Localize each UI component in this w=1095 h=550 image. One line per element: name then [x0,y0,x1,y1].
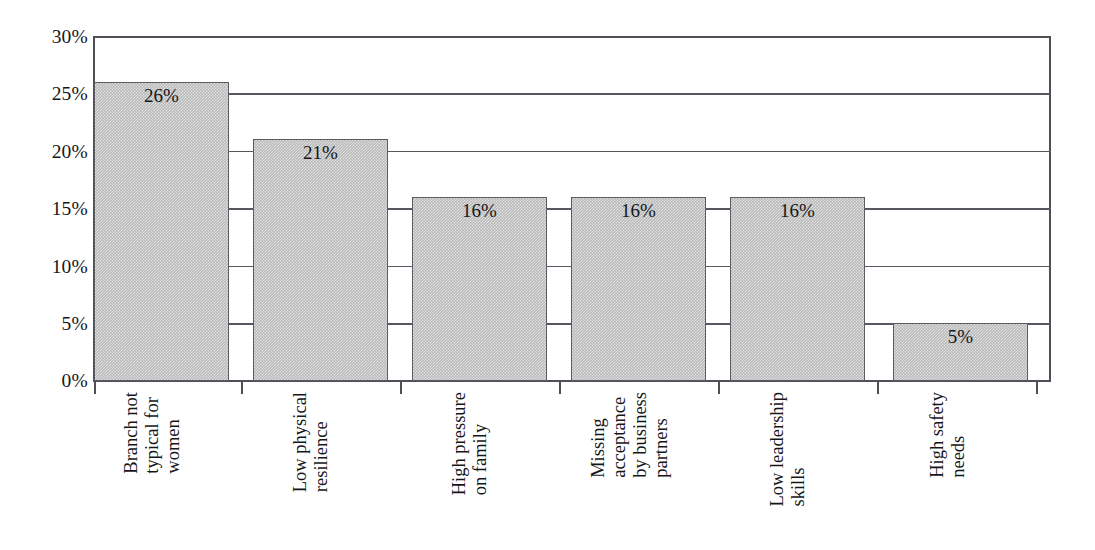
x-category-label-low-physical-resilience: Low physical resilience [290,392,332,492]
x-tick-4 [718,381,720,394]
bar-low-leadership-skills[interactable] [730,197,865,381]
x-category-label-line: Low physical [290,392,311,492]
x-category-label-line: High pressure [449,392,470,495]
bar-value-label-3: 16% [412,200,547,222]
bar-value-label-2: 21% [253,142,388,164]
bar-chart: 30% 25% 20% 15% 10% 5% 0% 26% 21% 16% 16… [0,0,1095,550]
x-category-label-line: acceptance [609,392,630,478]
x-category-label-line: skills [788,392,809,507]
x-tick-0 [94,381,96,394]
x-category-label-line: needs [948,392,969,478]
x-category-label-line: Low leadership [767,392,788,507]
bar-value-label-6: 5% [893,326,1028,348]
x-category-label-line: typical for [142,392,163,474]
bar-high-pressure-on-family[interactable] [412,197,547,381]
x-category-label-line: High safety [927,392,948,478]
x-category-label-line: partners [651,392,672,478]
x-tick-3 [559,381,561,394]
bar-value-label-5: 16% [730,200,865,222]
x-tick-2 [400,381,402,394]
x-category-label-line: on family [470,392,491,495]
bar-missing-acceptance-by-business-partners[interactable] [571,197,706,381]
x-category-label-line: women [163,392,184,474]
x-category-label-branch-not-typical-for-women: Branch not typical for women [121,392,184,474]
x-tick-5 [877,381,879,394]
x-category-label-high-pressure-on-family: High pressure on family [449,392,491,495]
bar-branch-not-typical-for-women[interactable] [94,82,229,381]
x-category-label-line: Missing [588,392,609,478]
x-tick-6 [1036,381,1038,394]
x-category-label-line: Branch not [121,392,142,474]
bar-low-physical-resilience[interactable] [253,139,388,381]
x-category-label-line: by business [630,392,651,478]
x-category-label-high-safety-needs: High safety needs [927,392,969,478]
x-tick-1 [241,381,243,394]
bar-value-label-1: 26% [94,85,229,107]
x-category-label-line: resilience [311,392,332,492]
x-category-label-missing-acceptance-by-business-partners: Missing acceptance by business partners [588,392,672,478]
x-category-label-low-leadership-skills: Low leadership skills [767,392,809,507]
bar-value-label-4: 16% [571,200,706,222]
